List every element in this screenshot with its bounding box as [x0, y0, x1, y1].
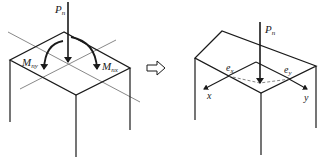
x-axis-arrow — [204, 76, 229, 89]
diagram-canvas: Pn Mny Mnx Pn ex ey x y — [0, 0, 323, 161]
y-axis-arrow — [289, 79, 307, 89]
diagram-svg: Pn Mny Mnx Pn ex ey x y — [0, 0, 323, 161]
load-label-left: Pn — [54, 3, 66, 17]
load-label-right: Pn — [264, 23, 276, 37]
equivalent-to-arrow-icon — [147, 61, 165, 75]
left-figure: Pn Mny Mnx — [8, 2, 140, 157]
moment-y-label: Mny — [21, 56, 39, 70]
axis-x-label: x — [206, 90, 212, 101]
right-figure: Pn ex ey x y — [195, 22, 316, 155]
ecc-x-label: ex — [226, 62, 234, 75]
ecc-dash-x — [228, 76, 260, 83]
axis-y-label: y — [303, 92, 309, 103]
moment-x-label: Mnx — [101, 60, 119, 74]
ecc-y-label: ey — [284, 64, 292, 77]
moment-x-arc — [71, 37, 97, 69]
moment-y-arc — [44, 41, 63, 69]
